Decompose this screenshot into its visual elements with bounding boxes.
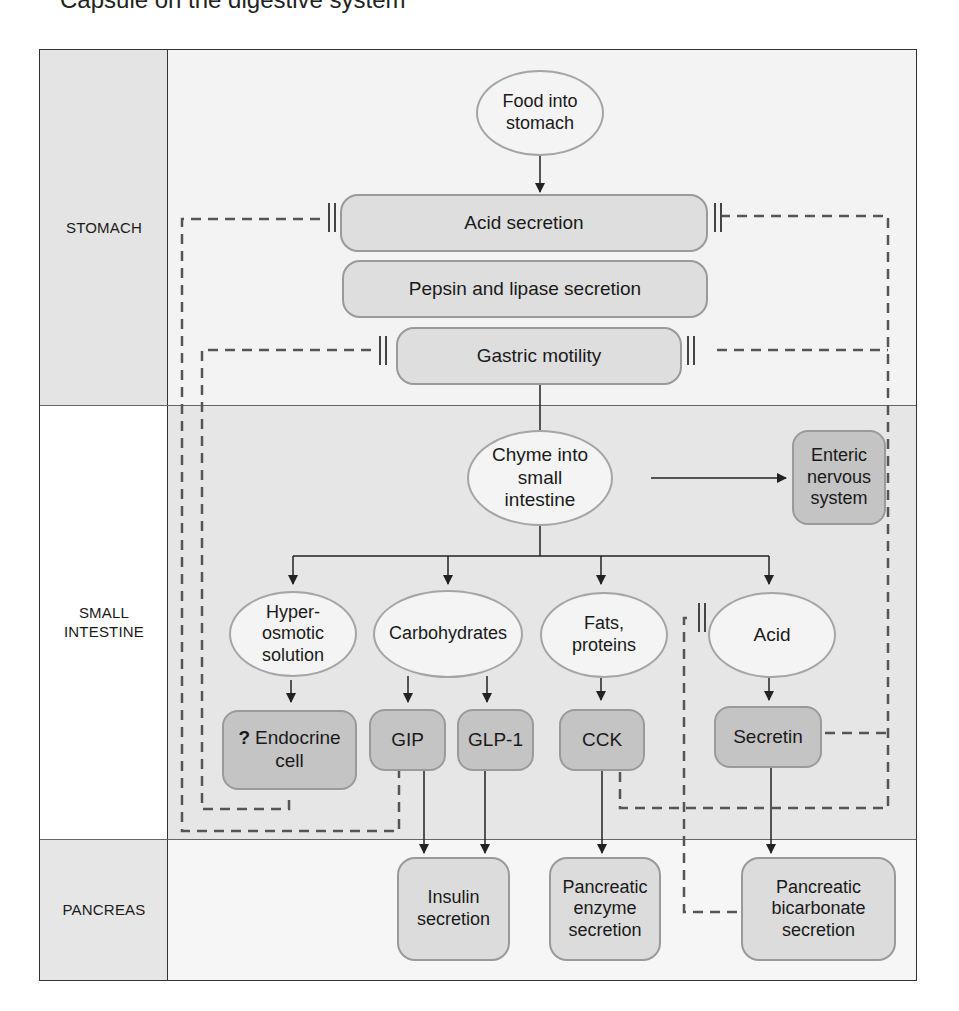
pancreatic-enzyme-box: Pancreatic enzyme secretion <box>549 857 661 961</box>
carbohydrates-ellipse: Carbohydrates <box>373 590 523 678</box>
region-label-small-intestine: SMALL INTESTINE <box>40 406 168 840</box>
region-label-pancreas: PANCREAS <box>40 840 168 980</box>
food-into-stomach-node: Food into stomach <box>476 70 604 156</box>
gip-box: GIP <box>369 709 446 771</box>
acid-secretion-box: Acid secretion <box>340 194 708 252</box>
endocrine-cell-label: Endocrine cell <box>255 727 341 771</box>
clipped-title: Capsule on the digestive system <box>60 0 406 14</box>
fats-proteins-ellipse: Fats, proteins <box>540 592 668 678</box>
unknown-question-mark: ? <box>238 727 250 748</box>
cck-box: CCK <box>559 709 645 771</box>
hyperosmotic-ellipse: Hyper-osmotic solution <box>229 591 357 677</box>
pancreatic-bicarbonate-box: Pancreatic bicarbonate secretion <box>741 857 896 961</box>
chyme-node: Chyme into small intestine <box>467 430 613 526</box>
enteric-nervous-system-box: Enteric nervous system <box>792 430 886 525</box>
si-pancreas-divider <box>40 839 916 840</box>
region-label-stomach: STOMACH <box>40 50 168 406</box>
insulin-secretion-box: Insulin secretion <box>397 857 510 961</box>
acid-ellipse: Acid <box>708 592 836 678</box>
pepsin-lipase-box: Pepsin and lipase secretion <box>342 260 708 318</box>
glp1-box: GLP-1 <box>457 709 534 771</box>
stomach-si-divider <box>40 405 916 406</box>
gastric-motility-box: Gastric motility <box>396 327 682 385</box>
diagram-frame <box>39 49 917 981</box>
endocrine-cell-box: ?Endocrine cell <box>222 710 357 790</box>
secretin-box: Secretin <box>714 706 822 768</box>
